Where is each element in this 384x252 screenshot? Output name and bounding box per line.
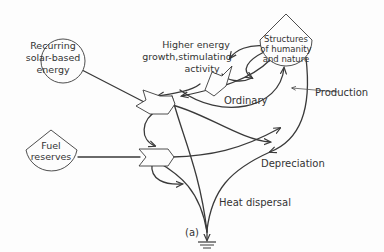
figure-caption: (a) [185,227,199,238]
fuel-label-line1: Fuel [41,140,60,151]
higher-energy-label-line2: growth,stimulating [142,51,232,62]
depreciation-line-arrow [270,58,308,152]
structures-label-line2: of humanity [260,44,311,54]
higher-energy-label-line1: Higher energy [162,39,230,50]
heat-sink-icon [198,242,216,248]
energy-flow-diagram: Recurring solar-based energy Fuel reserv… [0,0,384,252]
stimulation-line [158,84,200,96]
fuel-label-line2: reserves [31,151,72,162]
solar-energy-source: Recurring solar-based energy [26,39,85,83]
higher-energy-label-line3: activity [184,63,219,74]
solar-flow-line [82,70,148,104]
solar-label-line2: solar-based [26,52,81,63]
heat-dispersal-label: Heat dispersal [219,197,291,208]
upper-output-right [168,104,270,142]
structures-label-line3: and nature [263,54,310,64]
lower-output-right [172,128,280,157]
fuel-reserves-storage: Fuel reserves [26,130,77,171]
feedback-line-2 [246,52,264,78]
flow-lines [78,46,338,240]
lower-interaction-icon [139,149,174,166]
structures-storage: Structures of humanity and nature [260,14,312,66]
structures-label-line1: Structures [264,34,309,44]
depreciation-label: Depreciation [261,158,325,169]
ordinary-label: Ordinary [224,95,268,106]
production-label: Production [315,87,368,98]
solar-label-line3: energy [36,64,69,75]
upper-to-lower-line [144,110,158,146]
solar-label-line1: Recurring [30,40,76,51]
lower-heat-line [158,162,207,232]
